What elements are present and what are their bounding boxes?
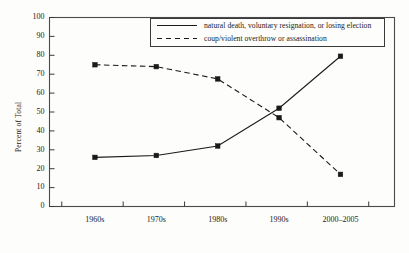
data-point-marker	[154, 153, 159, 158]
data-point-marker	[215, 144, 220, 149]
data-point-marker	[154, 64, 159, 69]
legend-label-1: coup/violent overthrow or assassination	[204, 34, 327, 43]
data-point-marker	[93, 155, 98, 160]
legend-item-0: natural death, voluntary resignation, or…	[151, 19, 384, 32]
line-chart: Percent of Total 0102030405060708090100 …	[0, 0, 409, 253]
legend-item-1: coup/violent overthrow or assassination	[151, 32, 384, 45]
data-point-marker	[277, 115, 282, 120]
data-point-marker	[338, 54, 343, 59]
legend-label-0: natural death, voluntary resignation, or…	[204, 21, 371, 30]
legend-dashed-line-sample	[156, 34, 198, 43]
data-point-marker	[215, 77, 220, 82]
data-point-marker	[93, 62, 98, 67]
series-line-0	[95, 56, 341, 157]
chart-legend: natural death, voluntary resignation, or…	[150, 18, 385, 47]
data-point-marker	[338, 172, 343, 177]
legend-solid-line-sample	[156, 21, 198, 30]
data-point-marker	[277, 106, 282, 111]
